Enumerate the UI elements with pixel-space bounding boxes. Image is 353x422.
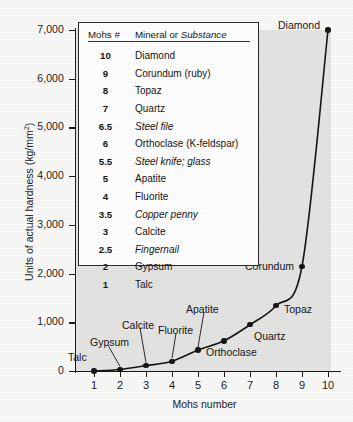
point-label: Orthoclase	[206, 346, 257, 358]
table-cell-mohs: 3.5	[88, 209, 135, 220]
table-cell-mohs: 6.5	[88, 121, 135, 132]
point-label: Quartz	[254, 330, 286, 342]
mohs-legend-table: Mohs # Mineral or Substance 10Diamond9Co…	[78, 22, 259, 266]
table-row: 5Apatite	[79, 170, 258, 188]
table-cell-mineral: Topaz	[135, 85, 250, 96]
table-cell-mineral: Steel knife; glass	[135, 156, 250, 167]
table-header-row: Mohs # Mineral or Substance	[79, 29, 258, 43]
table-body: 10Diamond9Corundum (ruby)8Topaz7Quartz6.…	[79, 47, 258, 293]
table-cell-mohs: 10	[88, 50, 135, 61]
leader-line	[172, 333, 176, 358]
table-row: 7Quartz	[79, 100, 258, 118]
table-row: 9Corundum (ruby)	[79, 65, 258, 83]
header-italic-text: Substance	[181, 29, 227, 40]
table-cell-mohs: 8	[88, 85, 135, 96]
table-row: 3.5Copper penny	[79, 205, 258, 223]
table-row: 6.5Steel file	[79, 117, 258, 135]
leader-line	[140, 328, 146, 363]
table-cell-mineral: Diamond	[135, 50, 250, 61]
table-cell-mineral: Apatite	[135, 173, 250, 184]
table-cell-mineral: Talc	[135, 279, 250, 290]
data-point-marker	[325, 27, 330, 32]
table-cell-mineral: Copper penny	[135, 209, 250, 220]
point-label: Gypsum	[90, 336, 129, 348]
table-row: 2Gypsum	[79, 258, 258, 276]
table-cell-mohs: 2.5	[88, 244, 135, 255]
header-plain-text: Mineral or	[135, 29, 181, 40]
table-cell-mohs: 3	[88, 226, 135, 237]
table-cell-mineral: Steel file	[135, 121, 250, 132]
table-cell-mohs: 7	[88, 103, 135, 114]
table-cell-mohs: 5	[88, 173, 135, 184]
table-row: 5.5Steel knife; glass	[79, 153, 258, 171]
table-cell-mohs: 1	[88, 279, 135, 290]
point-label: Calcite	[122, 319, 154, 331]
table-row: 3Calcite	[79, 223, 258, 241]
table-cell-mineral: Corundum (ruby)	[135, 68, 250, 79]
table-cell-mineral: Quartz	[135, 103, 250, 114]
table-row: 2.5Fingernail	[79, 241, 258, 259]
table-cell-mohs: 9	[88, 68, 135, 79]
table-header-mohs: Mohs #	[88, 29, 135, 42]
table-cell-mineral: Orthoclase (K-feldspar)	[135, 138, 250, 149]
table-row: 1Talc	[79, 276, 258, 294]
table-cell-mohs: 4	[88, 191, 135, 202]
mohs-hardness-figure: 01,0002,0003,0004,0005,0006,0007,000 123…	[0, 0, 353, 422]
point-label: Topaz	[284, 303, 312, 315]
table-header-mineral: Mineral or Substance	[135, 29, 250, 42]
table-row: 4Fluorite	[79, 188, 258, 206]
data-point-marker	[169, 359, 174, 364]
point-label: Fluorite	[158, 324, 193, 336]
leader-line	[198, 312, 204, 347]
table-cell-mohs: 6	[88, 138, 135, 149]
data-point-marker	[221, 338, 226, 343]
table-row: 6Orthoclase (K-feldspar)	[79, 135, 258, 153]
point-label: Talc	[68, 351, 87, 363]
table-cell-mohs: 5.5	[88, 156, 135, 167]
data-point-marker	[143, 363, 148, 368]
table-cell-mineral: Calcite	[135, 226, 250, 237]
table-cell-mineral: Fingernail	[135, 244, 250, 255]
table-cell-mineral: Fluorite	[135, 191, 250, 202]
data-point-marker	[117, 367, 122, 372]
table-row: 10Diamond	[79, 47, 258, 65]
table-cell-mineral: Gypsum	[135, 261, 250, 272]
data-point-marker	[91, 368, 96, 373]
table-cell-mohs: 2	[88, 261, 135, 272]
table-row: 8Topaz	[79, 82, 258, 100]
point-label: Diamond	[278, 19, 320, 31]
data-point-marker	[299, 264, 304, 269]
leader-line	[108, 345, 120, 366]
data-point-marker	[195, 347, 200, 352]
point-label: Apatite	[186, 303, 219, 315]
